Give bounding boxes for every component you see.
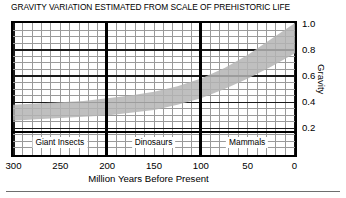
y-axis-tick-label: 0.6	[302, 71, 315, 81]
y-axis-tick-label: 0.8	[302, 45, 315, 55]
x-axis-title: Million Years Before Present	[0, 173, 297, 184]
era-label: Giant Insects	[32, 137, 87, 148]
x-axis-tick-label: 100	[184, 160, 218, 171]
plot-area: Giant InsectsDinosaursMammals	[11, 21, 297, 157]
footer-divider	[6, 191, 340, 192]
plot-inner: Giant InsectsDinosaursMammals	[13, 23, 295, 155]
x-axis-tick-label: 0	[278, 160, 312, 171]
y-axis-title: Gravity	[316, 64, 327, 94]
era-strip: Giant InsectsDinosaursMammals	[13, 131, 295, 155]
y-axis-tick-label: 0.2	[302, 123, 315, 133]
x-axis-tick-label: 200	[90, 160, 124, 171]
era-label: Mammals	[226, 137, 268, 148]
gravity-variation-chart: GRAVITY VARIATION ESTIMATED FROM SCALE O…	[0, 0, 346, 198]
x-axis-tick-label: 250	[43, 160, 77, 171]
era-label: Dinosaurs	[132, 137, 176, 148]
x-axis-tick-label: 150	[137, 160, 171, 171]
y-axis-tick-label: 0.4	[302, 97, 315, 107]
x-axis-tick-label: 300	[0, 160, 31, 171]
x-axis-tick-label: 50	[231, 160, 265, 171]
y-axis-tick-label: 1.0	[302, 19, 315, 29]
chart-title: GRAVITY VARIATION ESTIMATED FROM SCALE O…	[11, 2, 290, 12]
